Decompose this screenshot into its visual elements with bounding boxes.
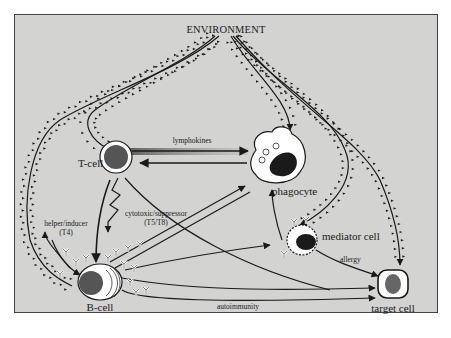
- antigen-dot: [172, 59, 175, 61]
- antigen-dot: [37, 138, 40, 140]
- antigen-dot: [22, 197, 25, 199]
- bcell-label: B-cell: [87, 301, 114, 313]
- antigen-dot: [30, 221, 33, 223]
- antigen-dot: [32, 192, 35, 194]
- antibody-icon: [83, 255, 89, 262]
- antigen-dot: [125, 81, 128, 83]
- antigen-dot: [36, 163, 39, 165]
- antigen-dot: [132, 93, 135, 95]
- antigen-dot: [151, 70, 154, 72]
- antigen-dot: [383, 202, 386, 204]
- antigen-dot: [240, 46, 243, 48]
- antigen-dot: [30, 197, 33, 199]
- antigen-dot: [338, 180, 341, 182]
- antigen-dot: [197, 55, 200, 57]
- antigen-dot: [267, 64, 270, 66]
- antigen-dot: [34, 237, 37, 239]
- antigen-dot: [321, 112, 324, 114]
- antigen-dot: [112, 86, 115, 88]
- antigen-dot: [378, 187, 381, 189]
- antigen-dot: [281, 118, 284, 120]
- antigen-dot: [139, 89, 142, 91]
- antigen-dot: [296, 91, 299, 93]
- antigen-dot: [58, 124, 61, 126]
- antigen-dot: [394, 256, 397, 258]
- antigen-dot: [49, 276, 52, 278]
- helper-arrow: [96, 180, 110, 262]
- mediator-nucleus: [296, 234, 316, 250]
- antigen-dot: [307, 213, 310, 215]
- antigen-dot: [154, 77, 157, 79]
- mediator-label: mediator cell: [322, 230, 380, 242]
- antigen-dot: [97, 131, 100, 133]
- antigen-dot: [357, 156, 360, 158]
- antigen-dot: [309, 98, 312, 100]
- antigen-dot: [44, 257, 47, 259]
- antigen-dot: [146, 69, 149, 71]
- antigen-dot: [394, 207, 397, 209]
- antigen-dot: [322, 123, 325, 125]
- antigen-dot: [291, 86, 294, 88]
- antigen-dot: [128, 92, 131, 94]
- antigen-dot: [22, 222, 25, 224]
- antigen-dot: [64, 288, 67, 290]
- antigen-dot: [290, 95, 293, 97]
- antigen-dot: [150, 82, 153, 84]
- antigen-dot: [134, 76, 137, 78]
- tcell-label: T-cell: [78, 157, 103, 169]
- antibody-icon: [57, 271, 63, 278]
- lymphokines-label: lymphokines: [173, 136, 212, 145]
- antigen-dot: [118, 101, 121, 103]
- antigen-dot: [368, 156, 371, 158]
- antigen-dot: [213, 46, 216, 48]
- bcell-loop-down-arrow: [52, 240, 80, 275]
- antigen-dot: [160, 62, 163, 64]
- antigen-dot: [176, 67, 179, 69]
- antibody-icon: [291, 219, 297, 226]
- antigen-dot: [256, 53, 259, 55]
- antigen-dot: [278, 72, 281, 74]
- antigen-dot: [327, 115, 330, 117]
- antigen-dot: [308, 111, 311, 113]
- antigen-dot: [33, 226, 36, 228]
- antigen-dot: [320, 217, 323, 219]
- antigen-dot: [74, 117, 77, 119]
- target-label: target cell: [371, 302, 414, 314]
- antigen-dot: [226, 41, 229, 43]
- antigen-dot: [22, 178, 25, 180]
- antigen-dot: [209, 48, 212, 50]
- antigen-dot: [174, 70, 177, 72]
- environment-label: ENVIRONMENT: [186, 24, 266, 35]
- antigen-dot: [261, 86, 264, 88]
- antigen-dot: [79, 101, 82, 103]
- antigen-dot: [174, 54, 177, 56]
- antigen-dot: [393, 240, 396, 242]
- antigen-dot: [49, 138, 52, 140]
- antigen-dot: [325, 127, 328, 129]
- antigen-dot: [23, 185, 26, 187]
- antigen-dot: [107, 90, 110, 92]
- antigen-dot: [388, 192, 391, 194]
- antigen-dot: [53, 118, 56, 120]
- antigen-dot: [256, 80, 259, 82]
- antigen-dot: [215, 43, 218, 45]
- antigen-dot: [302, 105, 305, 107]
- antigen-dot: [315, 103, 318, 105]
- antigen-dot: [386, 210, 389, 212]
- antigen-dot: [34, 243, 37, 245]
- antigen-dot: [125, 97, 128, 99]
- cytotoxic-zigzag-arrow: [108, 178, 120, 232]
- antigen-dot: [345, 133, 348, 135]
- antigen-dot: [20, 191, 23, 193]
- antigen-dot: [28, 161, 31, 163]
- antigen-dot: [43, 274, 46, 276]
- antigen-dot: [285, 92, 288, 94]
- antigen-dot: [251, 74, 254, 76]
- antigen-dot: [36, 169, 39, 171]
- antigen-dot: [390, 225, 393, 227]
- antigen-dot: [278, 112, 281, 114]
- antigen-dot: [187, 46, 190, 48]
- antigen-dot: [315, 118, 318, 120]
- antigen-dot: [53, 282, 56, 284]
- bcell-to-phagocyte-line: [115, 192, 250, 268]
